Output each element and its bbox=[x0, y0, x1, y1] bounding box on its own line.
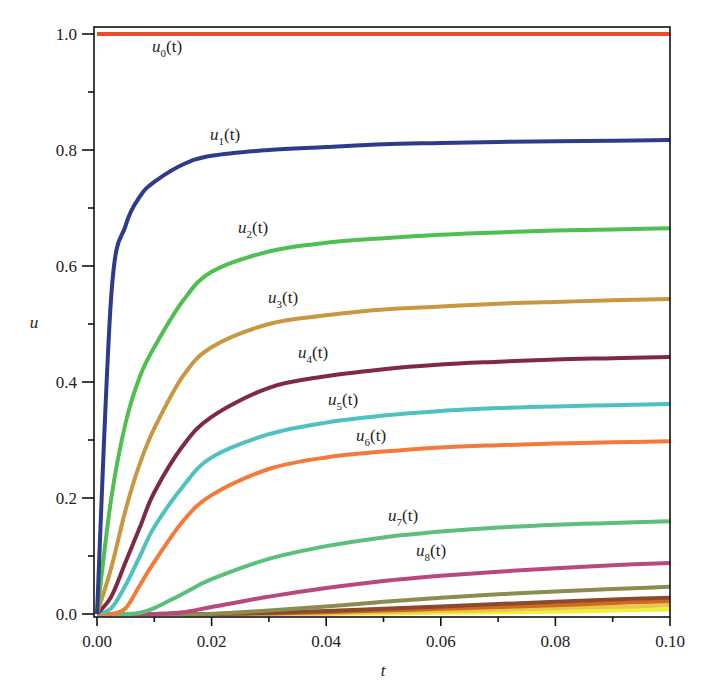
y-tick-label: 0.2 bbox=[56, 489, 77, 508]
y-tick-label: 0.8 bbox=[56, 141, 77, 160]
curve-label-u4t: u4(t) bbox=[298, 343, 328, 365]
y-tick-label: 0.0 bbox=[56, 605, 77, 624]
curve-label-u2t: u2(t) bbox=[238, 218, 268, 240]
plot-border bbox=[94, 27, 670, 617]
curve-label-u6t: u6(t) bbox=[356, 426, 386, 448]
curve-u2t bbox=[97, 228, 670, 614]
curve-label-u1t: u1(t) bbox=[210, 125, 240, 147]
curves-group bbox=[97, 34, 670, 614]
y-tick-label: 1.0 bbox=[56, 25, 77, 44]
y-axis-label: u bbox=[30, 313, 39, 332]
x-axis-label: t bbox=[381, 661, 387, 680]
curve-label-u5t: u5(t) bbox=[328, 390, 358, 412]
x-tick-label: 0.04 bbox=[311, 632, 341, 651]
curve-label-u8t: u8(t) bbox=[416, 541, 446, 563]
curve-label-u3t: u3(t) bbox=[268, 288, 298, 310]
x-tick-label: 0.08 bbox=[541, 632, 571, 651]
x-tick-label: 0.00 bbox=[82, 632, 112, 651]
y-tick-label: 0.6 bbox=[56, 257, 77, 276]
x-tick-label: 0.02 bbox=[197, 632, 227, 651]
curve-label-u7t: u7(t) bbox=[388, 506, 418, 528]
curve-labels: u0(t)u1(t)u2(t)u3(t)u4(t)u5(t)u6(t)u7(t)… bbox=[152, 37, 446, 563]
y-tick-label: 0.4 bbox=[56, 373, 78, 392]
x-tick-label: 0.10 bbox=[655, 632, 685, 651]
line-chart: 0.000.020.040.060.080.10 0.00.20.40.60.8… bbox=[0, 0, 707, 700]
plot-frame bbox=[94, 27, 670, 617]
y-axis-ticks: 0.00.20.40.60.81.0 bbox=[56, 25, 94, 624]
curve-label-u0t: u0(t) bbox=[152, 37, 182, 59]
x-tick-label: 0.06 bbox=[426, 632, 456, 651]
x-axis-ticks: 0.000.020.040.060.080.10 bbox=[82, 617, 685, 651]
